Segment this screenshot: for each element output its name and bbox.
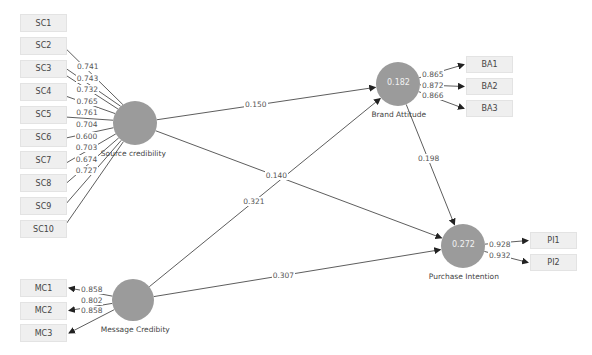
indicator-sc-2[interactable]: SC2 [20,37,67,55]
r-squared-value: 0.182 [387,78,410,87]
loading-value: 0.732 [76,85,99,94]
construct-sc[interactable] [113,101,157,145]
indicator-sc-6[interactable]: SC6 [20,129,67,147]
path-arrow-mc-ba [149,99,380,287]
loading-value: 0.932 [488,251,511,260]
loading-value: 0.741 [76,62,99,71]
indicator-sc-8[interactable]: SC8 [20,174,67,192]
loading-value: 0.600 [75,132,98,141]
path-coefficient: 0.150 [244,100,267,109]
indicator-sc-9[interactable]: SC9 [20,197,67,215]
loading-value: 0.704 [75,120,98,129]
indicator-mc-1[interactable]: MC1 [20,279,67,297]
indicator-sc-5[interactable]: SC5 [20,106,67,124]
loading-value: 0.674 [75,155,98,164]
path-coefficient: 0.321 [242,197,265,206]
indicator-mc-2[interactable]: MC2 [20,302,67,320]
loading-value: 0.928 [488,240,511,249]
indicator-sc-1[interactable]: SC1 [20,14,67,32]
indicator-pi-1[interactable]: PI1 [530,232,577,249]
loading-value: 0.727 [75,166,98,175]
indicator-ba-1[interactable]: BA1 [466,56,513,73]
path-coefficient: 0.307 [272,271,295,280]
loading-value: 0.872 [421,81,444,90]
indicator-mc-3[interactable]: MC3 [20,324,67,342]
indicator-sc-7[interactable]: SC7 [20,151,67,169]
construct-mc[interactable] [112,279,154,321]
loading-value: 0.858 [80,285,103,294]
indicator-ba-3[interactable]: BA3 [466,100,513,117]
loading-value: 0.765 [75,97,98,106]
path-arrow-sc-pi [156,131,442,238]
loading-value: 0.865 [421,70,444,79]
loading-value: 0.802 [80,296,103,305]
construct-label: Message Credibity [101,325,170,334]
construct-label: Source credibility [101,149,166,158]
loading-value: 0.858 [80,306,103,315]
loading-value: 0.743 [76,74,99,83]
construct-label: Brand Attitude [371,110,426,119]
path-coefficient: 0.140 [265,171,288,180]
indicator-ba-2[interactable]: BA2 [466,78,513,95]
loading-value: 0.703 [75,143,98,152]
path-arrow-mc-pi [154,250,441,297]
indicator-pi-2[interactable]: PI2 [530,254,577,271]
loading-value: 0.761 [75,108,98,117]
r-squared-value: 0.272 [452,240,475,249]
indicator-sc-4[interactable]: SC4 [20,83,67,101]
construct-label: Purchase Intention [429,272,499,281]
path-arrow-ba-pi [406,104,454,224]
loading-value: 0.866 [421,91,444,100]
path-coefficient: 0.198 [417,154,440,163]
indicator-sc-3[interactable]: SC3 [20,60,67,78]
indicator-sc-10[interactable]: SC10 [20,220,67,238]
